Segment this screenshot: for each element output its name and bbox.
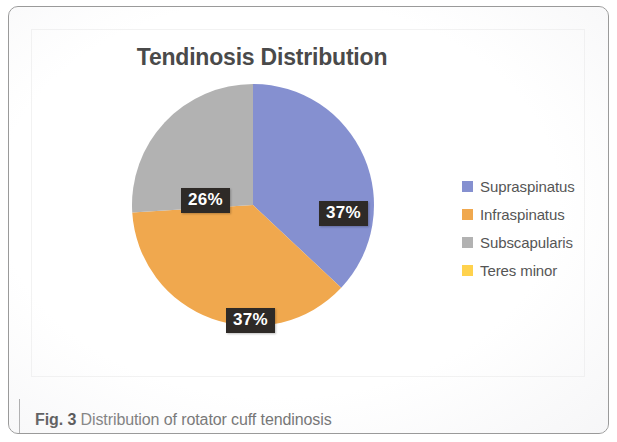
legend-swatch-icon-infraspinatus	[462, 209, 473, 220]
legend-item-teres-minor: Teres minor	[462, 256, 587, 284]
figure-caption-text: Distribution of rotator cuff tendinosis	[81, 411, 332, 428]
chart-title: Tendinosis Distribution	[32, 44, 492, 71]
caption-divider	[19, 399, 20, 434]
legend-label-subscapularis: Subscapularis	[480, 234, 573, 251]
figure-caption: Fig. 3 Distribution of rotator cuff tend…	[35, 411, 332, 429]
pie-slice-label-infraspinatus: 37%	[226, 308, 275, 333]
legend-item-infraspinatus: Infraspinatus	[462, 200, 587, 228]
legend-label-infraspinatus: Infraspinatus	[480, 206, 565, 223]
chart-plot-area: Tendinosis Distribution 37% 37% 26% Supr…	[31, 29, 585, 377]
legend-swatch-icon-supraspinatus	[462, 181, 473, 192]
legend-item-supraspinatus: Supraspinatus	[462, 172, 587, 200]
chart-legend: Supraspinatus Infraspinatus Subscapulari…	[462, 172, 587, 284]
legend-label-teres-minor: Teres minor	[480, 262, 557, 279]
figure-panel: Tendinosis Distribution 37% 37% 26% Supr…	[8, 6, 609, 434]
legend-item-subscapularis: Subscapularis	[462, 228, 587, 256]
pie-slice-label-subscapularis: 26%	[181, 188, 230, 213]
legend-label-supraspinatus: Supraspinatus	[480, 178, 575, 195]
pie-slice-label-supraspinatus: 37%	[319, 201, 368, 226]
legend-swatch-icon-teres-minor	[462, 265, 473, 276]
legend-swatch-icon-subscapularis	[462, 237, 473, 248]
figure-number: Fig. 3	[35, 411, 76, 428]
